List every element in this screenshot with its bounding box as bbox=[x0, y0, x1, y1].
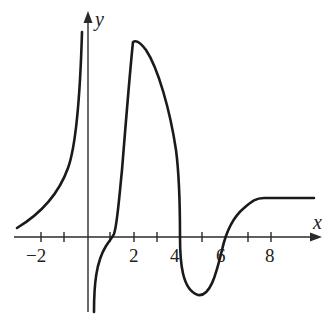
y-axis-arrow-icon bbox=[84, 11, 93, 23]
curve-middle-branch bbox=[94, 41, 180, 312]
x-axis-arrow-icon bbox=[310, 233, 322, 242]
curve-right-branch bbox=[180, 198, 314, 295]
y-axis: y bbox=[84, 8, 105, 312]
x-axis: x bbox=[14, 211, 322, 242]
curve-left-branch bbox=[17, 32, 82, 228]
y-axis-label: y bbox=[93, 8, 104, 31]
tick-label-2: 2 bbox=[129, 245, 139, 266]
tick-label-8: 8 bbox=[265, 245, 275, 266]
tick-label-4: 4 bbox=[170, 245, 180, 266]
function-graph: x y −2 2 4 6 8 bbox=[0, 0, 328, 319]
x-axis-label: x bbox=[312, 211, 322, 233]
tick-label-neg2: −2 bbox=[26, 245, 46, 266]
x-tick-labels: −2 2 4 6 8 bbox=[26, 245, 275, 266]
